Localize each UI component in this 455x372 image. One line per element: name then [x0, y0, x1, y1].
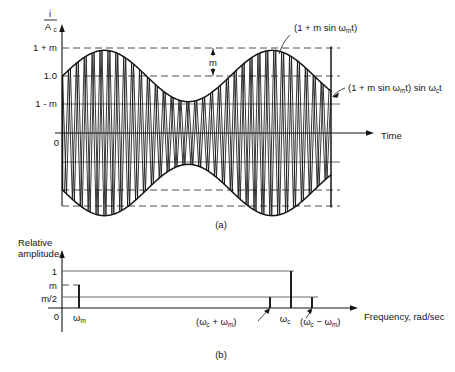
- panel-b: Relative amplitude 1 m m/2 0: [18, 237, 445, 360]
- panel-b-y-axis-label-line1: Relative: [18, 237, 52, 248]
- depth-marker-arrow-up: [211, 49, 216, 55]
- panel-b-y-axis-arrowhead: [59, 250, 65, 258]
- panel-b-y-tick-label-m: m: [49, 280, 57, 291]
- panel-b-y-tick-label-1: 1: [52, 266, 57, 277]
- panel-a-caption: (a): [215, 219, 227, 230]
- panel-b-x-tick-labels: ωm (ωc + ωm) ωc (ωc − ωm): [73, 308, 340, 328]
- y-tick-label-1-plus-m: 1 + m: [33, 42, 57, 53]
- panel-a-y-tick-labels: 1 + m 1.0 1 - m 0: [33, 42, 59, 148]
- annotation-modulated-signal: (1 + m sin ωmt) sin ωct: [332, 82, 442, 98]
- figure-svg: i A c: [0, 0, 455, 372]
- panel-b-x-axis-arrowhead: [350, 305, 358, 311]
- panel-b-spectral-lines: [79, 271, 318, 308]
- y-tick-label-1-minus-m: 1 - m: [35, 98, 57, 109]
- panel-a-depth-marker: m: [206, 48, 220, 76]
- panel-a-x-axis-label: Time: [381, 130, 402, 141]
- x-tick-label-upper-sideband: (ωc + ωm): [196, 316, 236, 328]
- x-tick-label-modulating: ωm: [73, 312, 86, 324]
- depth-marker-arrow-down: [211, 69, 216, 75]
- depth-marker-label: m: [209, 57, 217, 68]
- panel-a: i A c: [33, 8, 442, 230]
- panel-a-y-axis-arrowhead: [59, 24, 65, 32]
- panel-b-x-axis-label: Frequency, rad/sec: [364, 311, 445, 322]
- panel-b-y-axis-label: Relative amplitude: [18, 237, 59, 259]
- panel-a-y-axis-label: i A c: [44, 8, 57, 33]
- annotation-signal-text: (1 + m sin ωmt) sin ωct: [348, 82, 442, 94]
- figure-root: i A c: [0, 0, 455, 372]
- x-tick-label-carrier: ωc: [280, 313, 291, 325]
- panel-b-y-axis-label-line2: amplitude: [18, 248, 59, 259]
- y-tick-label-zero: 0: [54, 137, 59, 148]
- panel-b-y-tick-label-zero: 0: [54, 311, 59, 322]
- y-axis-label-denominator: A: [45, 21, 52, 32]
- panel-b-y-tick-label-m-over-2: m/2: [41, 293, 57, 304]
- y-axis-label-denominator-subscript: c: [53, 26, 56, 33]
- annotation-envelope: (1 + m sin ωmt): [279, 22, 357, 54]
- panel-b-caption: (b): [215, 349, 227, 360]
- y-tick-label-1-0: 1.0: [44, 70, 57, 81]
- panel-b-gridlines: [62, 271, 294, 297]
- y-axis-label-numerator: i: [49, 8, 51, 19]
- panel-a-x-axis-arrowhead: [366, 130, 374, 136]
- annotation-signal-leader: [333, 88, 345, 96]
- panel-b-y-tick-labels: 1 m m/2 0: [41, 266, 59, 322]
- annotation-envelope-text: (1 + m sin ωmt): [294, 22, 357, 34]
